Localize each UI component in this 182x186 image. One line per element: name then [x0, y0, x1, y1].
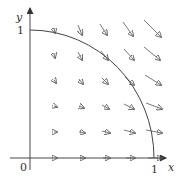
y-axis-label: y	[16, 12, 22, 23]
origin-label: 0	[20, 162, 27, 173]
x-axis-label: x	[168, 162, 174, 173]
unit-circle-arc	[30, 30, 154, 158]
vector-field-diagram	[0, 0, 182, 186]
y-tick-one: 1	[17, 25, 24, 36]
vector-field-arrows	[54, 20, 162, 158]
x-tick-one: 1	[151, 164, 158, 175]
